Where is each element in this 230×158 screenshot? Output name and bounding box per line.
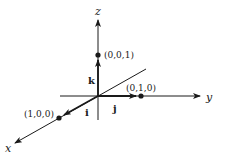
point-0-1-0-label: (0,1,0) bbox=[126, 83, 156, 93]
point-0-0-1-label: (0,0,1) bbox=[104, 50, 134, 60]
point-0-1-0 bbox=[138, 93, 143, 98]
point-0-0-1 bbox=[95, 52, 100, 57]
unit-vectors-diagram: z y x k j i (0,0,1) (0,1,0) (1,0,0) bbox=[0, 0, 230, 158]
z-axis-label: z bbox=[94, 5, 101, 18]
x-axis-label: x bbox=[5, 142, 12, 155]
point-1-0-0 bbox=[56, 115, 61, 120]
point-1-0-0-label: (1,0,0) bbox=[24, 109, 54, 119]
y-axis-label: y bbox=[205, 91, 213, 104]
k-label: k bbox=[88, 75, 96, 86]
i-label: i bbox=[85, 107, 89, 118]
j-label: j bbox=[112, 103, 117, 114]
i-vector bbox=[64, 96, 98, 115]
